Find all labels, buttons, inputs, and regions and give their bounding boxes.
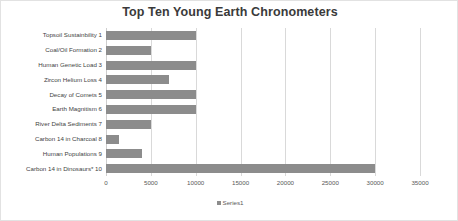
bar[interactable] <box>106 120 151 129</box>
bar[interactable] <box>106 105 196 114</box>
bar[interactable] <box>106 46 151 55</box>
bar-row <box>106 149 420 158</box>
legend-item-label: Series1 <box>223 199 244 206</box>
category-label: Topsoil Sustainbility 1 <box>1 31 102 39</box>
tick-label-30000: 30000 <box>367 179 384 186</box>
tick-label-35000: 35000 <box>411 179 428 186</box>
chart-container: Top Ten Young Earth Chronometers Topsoil… <box>0 0 458 221</box>
category-axis-labels: Topsoil Sustainbility 1Coal/Oil Formatio… <box>1 28 102 176</box>
tick-label-25000: 25000 <box>322 179 339 186</box>
category-label: Carbon 14 in Charcoal 8 <box>1 135 102 143</box>
plot-area <box>106 28 420 176</box>
tick-label-0: 0 <box>104 179 107 186</box>
category-label: Decay of Comets 5 <box>1 91 102 99</box>
bar-row <box>106 31 420 40</box>
category-label: River Delta Sediments 7 <box>1 120 102 128</box>
bar-row <box>106 135 420 144</box>
category-label: Carbon 14 in Dinosaurs* 10 <box>1 165 102 173</box>
bar-row <box>106 164 420 173</box>
tick-label-15000: 15000 <box>232 179 249 186</box>
bar-row <box>106 61 420 70</box>
value-axis-tick-labels: 05000100001500020000250003000035000 <box>106 179 420 191</box>
bar-row <box>106 120 420 129</box>
gridline-35000 <box>420 28 421 176</box>
tick-label-5000: 5000 <box>144 179 158 186</box>
bar[interactable] <box>106 31 196 40</box>
category-label: Human Genetic Load 3 <box>1 61 102 69</box>
bar-row <box>106 105 420 114</box>
tick-label-10000: 10000 <box>187 179 204 186</box>
category-label: Coal/Oil Formation 2 <box>1 46 102 54</box>
chart-legend: Series1 <box>1 199 458 206</box>
bar[interactable] <box>106 135 119 144</box>
category-label: Zircon Helium Loss 4 <box>1 76 102 84</box>
legend-square-marker-icon <box>217 201 221 205</box>
category-label: Earth Magnitism 6 <box>1 105 102 113</box>
bar-row <box>106 75 420 84</box>
bar[interactable] <box>106 61 196 70</box>
bar-series-group <box>106 28 420 176</box>
category-label: Human Populations 9 <box>1 150 102 158</box>
bar-row <box>106 46 420 55</box>
bar[interactable] <box>106 149 142 158</box>
tick-label-20000: 20000 <box>277 179 294 186</box>
bar[interactable] <box>106 164 375 173</box>
bar[interactable] <box>106 75 169 84</box>
bar[interactable] <box>106 90 196 99</box>
bar-row <box>106 90 420 99</box>
chart-title: Top Ten Young Earth Chronometers <box>1 5 458 19</box>
